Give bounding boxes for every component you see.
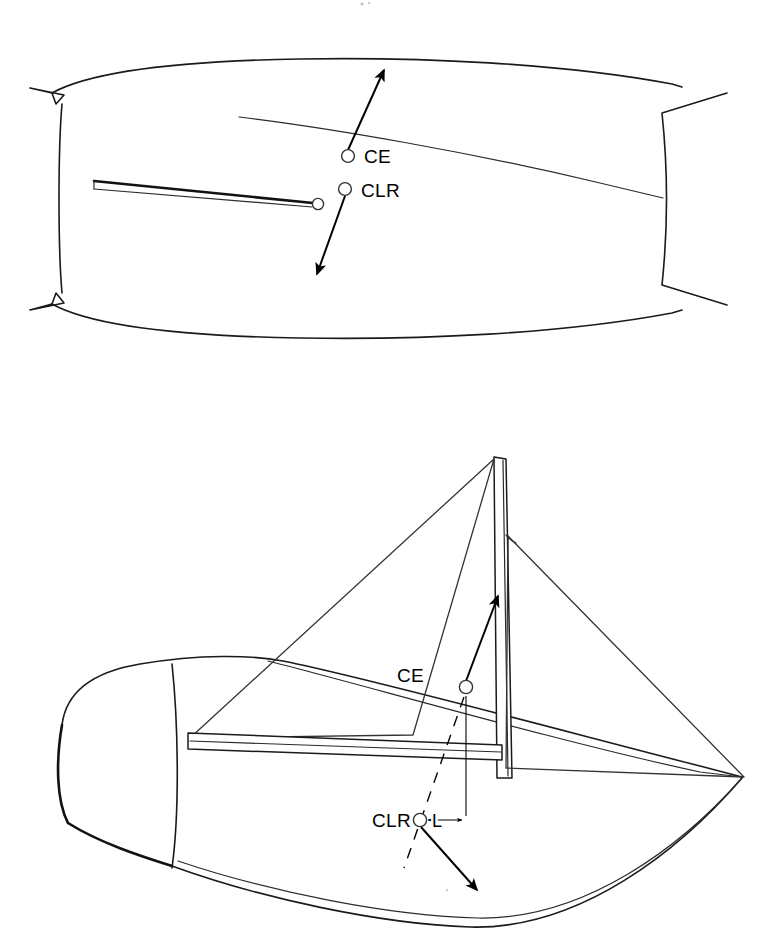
scan-artifact	[361, 2, 371, 6]
plan-clr-label: CLR	[361, 180, 400, 201]
perspective-clr-marker: CLR	[372, 810, 427, 831]
scan-speck	[446, 889, 449, 892]
plan-clr-marker: CLR	[339, 180, 400, 201]
perspective-ce-force-arrow	[466, 596, 498, 681]
perspective-clr-force-arrow	[421, 827, 477, 890]
mainsail	[506, 535, 744, 777]
perspective-hull	[58, 656, 742, 927]
perspective-ce-marker: CE	[397, 665, 473, 694]
lead-dimension-label: L	[432, 811, 442, 831]
perspective-ce-label: CE	[397, 665, 424, 686]
perspective-view: L CE CLR	[58, 457, 744, 927]
mast	[494, 457, 512, 778]
lead-dimension-group: L	[428, 696, 466, 831]
plan-ce-marker: CE	[342, 146, 391, 167]
boom	[188, 733, 502, 760]
sailboat-ce-clr-figure: CE CLR	[0, 0, 784, 949]
perspective-clr-label: CLR	[372, 810, 411, 831]
plan-sail-projection-curve	[239, 117, 663, 198]
diagram-root: CE CLR	[0, 0, 784, 949]
plan-view: CE CLR	[30, 59, 727, 339]
plan-ce-label: CE	[364, 146, 391, 167]
jib-sail	[190, 459, 494, 738]
plan-boom-spar	[94, 181, 324, 210]
